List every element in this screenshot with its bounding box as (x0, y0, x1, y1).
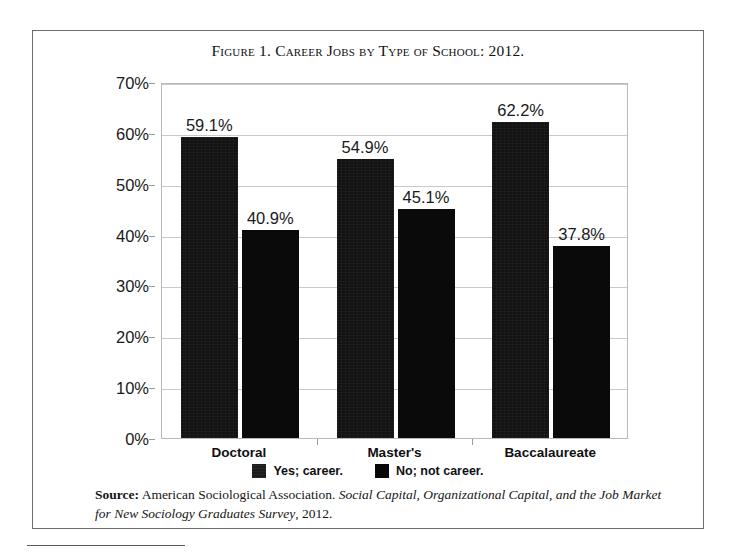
legend-label: No; not career. (396, 464, 484, 478)
bar-value-label: 62.2% (497, 101, 544, 120)
figure-container: Figure 1. Career Jobs by Type of School:… (32, 30, 704, 529)
y-axis-tick-label: 50% (116, 175, 149, 194)
source-label: Source: (95, 487, 139, 502)
bar-value-label: 59.1% (186, 116, 233, 135)
x-axis-tick-mark (317, 439, 318, 445)
legend-swatch-yes (252, 464, 266, 478)
legend-item: No; not career. (375, 464, 484, 478)
source-note: Source: American Sociological Associatio… (95, 486, 663, 523)
x-axis-tick-mark (472, 439, 473, 445)
y-axis-tick-label: 60% (116, 124, 149, 143)
y-axis-tick-label: 0% (125, 430, 149, 449)
y-axis-tick-mark (149, 83, 155, 84)
bar-value-label: 54.9% (342, 138, 389, 157)
source-organization: American Sociological Association. (139, 487, 339, 502)
chart-legend: Yes; career.No; not career. (33, 464, 703, 478)
y-axis-tick-mark (149, 439, 155, 440)
y-axis-tick-label: 40% (116, 226, 149, 245)
x-axis-category-label: Master's (367, 445, 421, 460)
bar-value-label: 37.8% (558, 225, 605, 244)
legend-swatch-no (375, 464, 389, 478)
bar-master-s-no (398, 209, 455, 438)
bar-doctoral-yes (181, 137, 238, 438)
y-axis-tick-label: 20% (116, 328, 149, 347)
y-axis-tick-mark (149, 185, 155, 186)
y-axis-tick-label: 30% (116, 277, 149, 296)
y-axis-tick-mark (149, 337, 155, 338)
y-axis-tick-label: 70% (116, 74, 149, 93)
bar-doctoral-no (242, 230, 299, 438)
source-year: , 2012. (295, 506, 332, 521)
y-axis-tick-mark (149, 134, 155, 135)
bar-master-s-yes (337, 159, 394, 438)
y-axis-tick-label: 10% (116, 379, 149, 398)
bar-baccalaureate-yes (492, 122, 549, 438)
y-axis-tick-mark (149, 286, 155, 287)
plot-area: 59.1%40.9%54.9%45.1%62.2%37.8% (161, 83, 628, 439)
bar-value-label: 40.9% (247, 209, 294, 228)
x-axis-category-label: Doctoral (211, 445, 266, 460)
y-axis: 0%10%20%30%40%50%60%70% (89, 83, 155, 439)
figure-title: Figure 1. Career Jobs by Type of School:… (33, 42, 703, 60)
y-axis-tick-mark (149, 388, 155, 389)
plot-region: 59.1%40.9%54.9%45.1%62.2%37.8% (161, 83, 628, 439)
y-axis-tick-mark (149, 236, 155, 237)
gridline (162, 84, 627, 85)
bar-value-label: 45.1% (403, 188, 450, 207)
legend-label: Yes; career. (273, 464, 343, 478)
x-axis-category-label: Baccalaureate (504, 445, 596, 460)
bar-baccalaureate-no (553, 246, 610, 438)
footnote-separator-rule (27, 545, 185, 546)
legend-item: Yes; career. (252, 464, 343, 478)
